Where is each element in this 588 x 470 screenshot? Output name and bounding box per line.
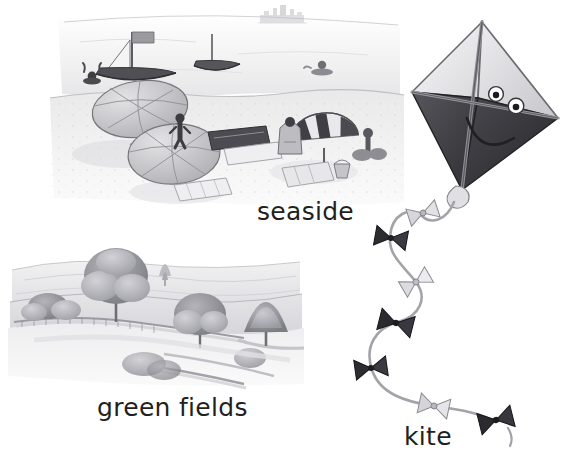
- kite-tail-string: [370, 202, 496, 422]
- label-green-fields: green fields: [97, 395, 248, 420]
- label-kite: kite: [404, 424, 452, 449]
- green-fields-artwork: [4, 236, 306, 388]
- illustration-kite: [330, 10, 588, 450]
- kite-tail-end: [508, 428, 512, 446]
- kite-panel-upper-left: [412, 22, 482, 98]
- illustration-green-fields: [4, 236, 306, 388]
- kite-tail-bow: [399, 267, 434, 298]
- illustration-page: seaside green fields kite: [0, 0, 588, 470]
- kite-artwork: [330, 10, 588, 450]
- kite-tail-bow: [406, 200, 440, 226]
- kite-pupil-right: [513, 104, 520, 111]
- kite-tail-knot-icon: [447, 186, 469, 208]
- kite-tail-bow: [377, 308, 415, 338]
- kite-pupil-left: [493, 92, 499, 98]
- kite-tail-bow: [417, 393, 451, 419]
- kite-tail-bow: [354, 356, 388, 380]
- label-seaside: seaside: [257, 199, 354, 224]
- kite-tail: [354, 200, 515, 446]
- distant-castle-icon: [258, 5, 307, 23]
- kite-body: [412, 22, 558, 208]
